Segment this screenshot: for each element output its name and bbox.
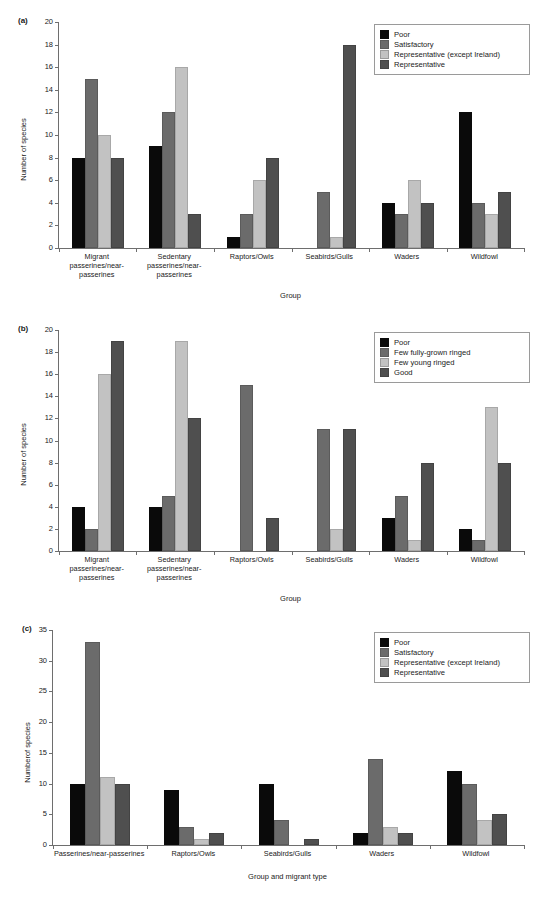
bar[interactable] [194, 839, 209, 845]
y-axis-label-b: Number of species [19, 410, 28, 500]
legend-item[interactable]: Good [380, 368, 523, 377]
bar[interactable] [317, 192, 330, 249]
bar[interactable] [421, 203, 434, 248]
bar[interactable] [162, 112, 175, 248]
bar-cluster [70, 630, 130, 845]
bar[interactable] [395, 496, 408, 551]
bar[interactable] [382, 203, 395, 248]
legend-label: Few fully-grown ringed [394, 349, 470, 357]
bar[interactable] [492, 814, 507, 845]
bar[interactable] [459, 529, 472, 551]
bar[interactable] [274, 820, 289, 845]
bar[interactable] [179, 827, 194, 845]
bar[interactable] [398, 833, 413, 845]
bar[interactable] [343, 45, 356, 248]
bar[interactable] [266, 518, 279, 551]
bar[interactable] [240, 214, 253, 248]
legend-item[interactable]: Few young ringed [380, 358, 523, 367]
legend-swatch-icon [380, 358, 389, 367]
bar[interactable] [175, 341, 188, 551]
bar[interactable] [472, 540, 485, 551]
bar[interactable] [317, 429, 330, 551]
bar[interactable] [70, 784, 85, 845]
legend-item[interactable]: Representative (except Ireland) [380, 658, 523, 667]
bar-group [59, 330, 137, 551]
bar[interactable] [85, 79, 98, 249]
bar[interactable] [459, 112, 472, 248]
legend-a[interactable]: PoorSatisfactoryRepresentative (except I… [374, 24, 530, 75]
bar[interactable] [382, 518, 395, 551]
bar[interactable] [98, 135, 111, 248]
bar[interactable] [149, 507, 162, 551]
bar-cluster [227, 22, 279, 248]
legend-swatch-icon [380, 658, 389, 667]
bar[interactable] [188, 418, 201, 551]
bar[interactable] [85, 642, 100, 845]
legend-item[interactable]: Representative [380, 668, 523, 677]
bar[interactable] [253, 180, 266, 248]
bar[interactable] [485, 407, 498, 551]
bar[interactable] [162, 496, 175, 551]
bar[interactable] [72, 507, 85, 551]
y-tick-label: 16 [45, 370, 53, 378]
bar[interactable] [353, 833, 368, 845]
legend-item[interactable]: Poor [380, 638, 523, 647]
legend-item[interactable]: Representative (except Ireland) [380, 50, 523, 59]
bar[interactable] [383, 827, 398, 845]
bar[interactable] [111, 158, 124, 248]
legend-item[interactable]: Poor [380, 338, 523, 347]
bar[interactable] [164, 790, 179, 845]
bar[interactable] [477, 820, 492, 845]
bar[interactable] [100, 777, 115, 845]
x-tick [241, 845, 242, 849]
bar[interactable] [266, 158, 279, 248]
legend-item[interactable]: Satisfactory [380, 40, 523, 49]
bar[interactable] [472, 203, 485, 248]
bar[interactable] [115, 784, 130, 845]
bar[interactable] [330, 529, 343, 551]
bar[interactable] [408, 180, 421, 248]
legend-item[interactable]: Representative [380, 60, 523, 69]
bar[interactable] [240, 385, 253, 551]
bar[interactable] [498, 192, 511, 249]
bar[interactable] [330, 237, 343, 248]
legend-label: Representative [394, 669, 445, 677]
legend-item[interactable]: Satisfactory [380, 648, 523, 657]
y-tick-label: 20 [45, 326, 53, 334]
chart-panel-c: (c) Numberof species 05101520253035 Pass… [0, 610, 537, 916]
bar[interactable] [72, 158, 85, 248]
bar[interactable] [408, 540, 421, 551]
legend-label: Poor [394, 31, 410, 39]
bar[interactable] [85, 529, 98, 551]
bar[interactable] [485, 214, 498, 248]
y-tick-label: 18 [45, 41, 53, 49]
bar[interactable] [149, 146, 162, 248]
legend-item[interactable]: Poor [380, 30, 523, 39]
bar[interactable] [259, 784, 274, 845]
bar[interactable] [498, 463, 511, 551]
legend-item[interactable]: Few fully-grown ringed [380, 348, 523, 357]
bar[interactable] [343, 429, 356, 551]
y-tick-label: 10 [39, 780, 47, 788]
legend-b[interactable]: PoorFew fully-grown ringedFew young ring… [374, 332, 530, 383]
bar[interactable] [227, 237, 240, 248]
bar[interactable] [175, 67, 188, 248]
bar[interactable] [462, 784, 477, 845]
bar[interactable] [368, 759, 383, 845]
bar[interactable] [209, 833, 224, 845]
x-category-line: Seabirds/Gulls [240, 850, 334, 859]
legend-swatch-icon [380, 338, 389, 347]
bar[interactable] [421, 463, 434, 551]
panel-label-a: (a) [18, 16, 28, 25]
y-tick-label: 0 [43, 841, 47, 849]
bar[interactable] [304, 839, 319, 845]
bar[interactable] [98, 374, 111, 551]
bar[interactable] [111, 341, 124, 551]
bar[interactable] [395, 214, 408, 248]
x-category-label: Waders [335, 850, 429, 859]
bar[interactable] [447, 771, 462, 845]
bar[interactable] [188, 214, 201, 248]
x-category-line: passerines [58, 574, 136, 583]
x-category-label: Raptors/Owls [146, 850, 240, 859]
legend-c[interactable]: PoorSatisfactoryRepresentative (except I… [374, 632, 530, 683]
